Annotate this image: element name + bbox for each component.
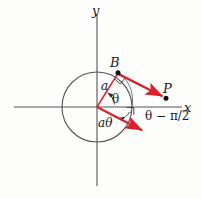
radius-length-label: a (101, 80, 108, 92)
axes-group (14, 14, 182, 186)
arc-length-label: aθ (98, 117, 112, 129)
theta-angle-label: θ (112, 93, 119, 105)
theta-minus-angle-arc (126, 112, 130, 117)
y-axis-label: y (92, 4, 99, 17)
point-P-label: P (163, 82, 172, 95)
theta-minus-pi-over-two-label: θ − π/2 (145, 110, 189, 122)
right-angle-marker-lower (127, 108, 134, 115)
figure-canvas (0, 0, 202, 198)
point-P-dot (164, 96, 169, 101)
involute-circle-figure: y x B P a θ aθ θ − π/2 (0, 0, 202, 198)
point-B-label: B (110, 56, 120, 69)
point-B-dot (116, 70, 121, 75)
